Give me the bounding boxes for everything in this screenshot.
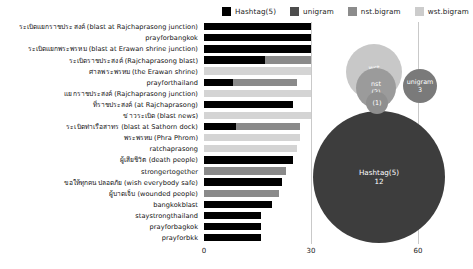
legend-item-hashtag: Hashtag(5) [222, 7, 276, 16]
category-label: prayforthailand [146, 79, 198, 87]
bar-segment [204, 112, 311, 119]
bar-segment-primary [204, 156, 293, 163]
bubble-hashtag-5: Hashtag(5)12 [313, 111, 445, 243]
legend-swatch-square-unigram [290, 7, 299, 16]
bar-segment [204, 134, 300, 141]
category-axis-labels: ระเบิดแยกราชประสงค์ (blast at Rajchapras… [0, 22, 200, 244]
x-axis-tick-label: 30 [307, 247, 316, 255]
legend-label-wst-bigram: wst.bigram [428, 7, 469, 16]
legend-item-wst-bigram: wst.bigram [415, 7, 469, 16]
legend-item-unigram: unigram [290, 7, 334, 16]
category-label: ศาลพระพรหม (the Erawan shrine) [89, 68, 198, 76]
category-label: ระเบิดแยกราชประสงค์ (blast at Rajchapras… [19, 23, 198, 31]
bar-segment-primary [204, 56, 265, 63]
bar-segment-primary [204, 223, 261, 230]
category-label: strongertogether [141, 168, 198, 176]
bar-segment-primary [204, 101, 293, 108]
category-label: ระเบิดท่าเรือสาทร (blast at Sathorn dock… [66, 123, 198, 131]
bar-segment-primary [204, 201, 272, 208]
category-label: ratchaprasong [149, 145, 198, 153]
bubble-inner: (1) [366, 92, 388, 114]
bar-segment-primary [204, 34, 311, 41]
category-label: ที่ราชประสงค์ (at Rajchaprasong) [93, 101, 198, 109]
category-label: prayforbkk [162, 234, 198, 242]
bar-segment-primary [204, 212, 261, 219]
legend-swatch-square-nst-bigram [348, 7, 357, 16]
bar-segment-primary [204, 234, 261, 241]
gridline [311, 22, 312, 244]
legend-swatch-square-wst-bigram [415, 7, 424, 16]
bar-segment [204, 90, 311, 97]
category-label: แยกราชประสงค์ (Rajchaprasong junction) [64, 90, 198, 98]
category-label: พระพรหม (Phra Phrom) [124, 134, 198, 142]
bar-segment-primary [204, 123, 236, 130]
category-label: bangkokblast [153, 201, 198, 209]
bubble-label: nst [371, 80, 381, 88]
category-label: prayforbagkok [150, 223, 198, 231]
category-label: ข่าวระเบิด (blast news) [123, 112, 198, 120]
bubble-value: 12 [374, 177, 383, 186]
legend-swatch-square-hashtag [222, 7, 231, 16]
category-label: ระเบิดแยกพระพรหม (blast at Erawan shrine… [28, 45, 198, 53]
category-label: staystrongthailand [135, 212, 198, 220]
legend-label-nst-bigram: nst.bigram [361, 7, 401, 16]
category-label: prayforbangkok [145, 34, 198, 42]
category-label: ขอให้ทุกคนปลอดภัย (wish everybody safe) [64, 179, 198, 187]
bubble-value: 3 [418, 86, 422, 94]
bar-segment-primary [204, 45, 311, 52]
legend-item-nst-bigram: nst.bigram [348, 7, 401, 16]
category-label: ระเบิดราชประสงค์ (Rajchaprasong blast) [69, 57, 198, 65]
bar-segment [204, 190, 279, 197]
legend-label-unigram: unigram [303, 7, 334, 16]
bubble-label: unigram [407, 78, 434, 86]
bar-segment-primary [204, 79, 233, 86]
category-label: ผู้เสียชีวิต (death people) [120, 156, 198, 164]
bubble-unigram: unigram3 [403, 69, 437, 103]
bar-segment-primary [204, 23, 311, 30]
bar-segment [204, 167, 286, 174]
x-axis-tick-label: 0 [202, 247, 206, 255]
legend-label-hashtag: Hashtag(5) [235, 7, 276, 16]
bubble-value: (1) [372, 99, 381, 107]
x-axis-tick-label: 60 [414, 247, 423, 255]
bar-segment [204, 145, 297, 152]
category-label: ผู้บาดเจ็บ (wounded people) [109, 190, 198, 198]
bubble-label: Hashtag(5) [359, 168, 399, 177]
bar-segment [204, 67, 311, 74]
bar-segment-primary [204, 178, 282, 185]
chart-legend: Hashtag(5) unigram nst.bigram wst.bigram [222, 5, 473, 17]
